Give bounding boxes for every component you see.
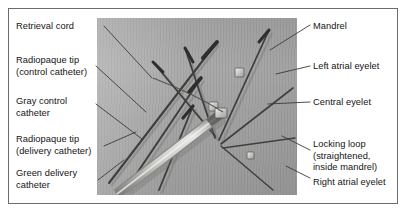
device-photograph (97, 18, 297, 195)
label-radiopaque-tip-control: Radiopaque tip (control catheter) (16, 55, 87, 78)
label-central-eyelet: Central eyelet (313, 97, 371, 109)
label-gray-control-catheter: Gray control catheter (16, 96, 67, 119)
label-locking-loop: Locking loop (straightened, inside mandr… (313, 139, 377, 174)
label-mandrel: Mandrel (313, 21, 347, 33)
label-radiopaque-tip-delivery: Radiopaque tip (delivery catheter) (16, 134, 91, 157)
eyelet-right-atrial (247, 152, 254, 159)
photo-contents (97, 18, 297, 195)
figure-panel: Retrieval cord Radiopaque tip (control c… (0, 0, 410, 219)
catheter-hub (215, 108, 227, 118)
label-retrieval-cord: Retrieval cord (16, 21, 74, 33)
label-left-atrial-eyelet: Left atrial eyelet (313, 61, 379, 73)
eyelet-left-atrial (235, 68, 244, 77)
mandrel-wires (109, 30, 295, 190)
label-right-atrial-eyelet: Right atrial eyelet (313, 177, 386, 189)
label-green-delivery-catheter: Green delivery catheter (16, 168, 77, 191)
delivery-catheter-shaft (117, 114, 223, 195)
